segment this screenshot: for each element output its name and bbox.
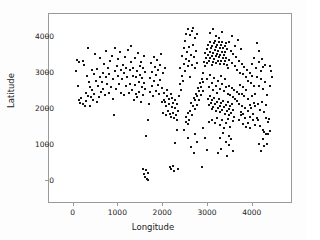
data-point: [228, 108, 230, 110]
data-point: [230, 138, 232, 140]
data-point: [194, 108, 196, 110]
data-point: [149, 91, 151, 93]
data-point: [185, 58, 187, 60]
data-point: [231, 103, 233, 105]
data-point: [87, 95, 89, 97]
data-point: [192, 44, 194, 46]
data-point: [211, 99, 213, 101]
data-point: [209, 41, 211, 43]
data-point: [240, 48, 242, 50]
data-point: [202, 72, 204, 74]
data-point: [154, 66, 156, 68]
data-point: [237, 39, 239, 41]
data-point: [171, 106, 173, 108]
y-tick-mark: [45, 180, 48, 181]
data-point: [240, 111, 242, 113]
data-point: [238, 103, 240, 105]
data-point: [78, 61, 80, 63]
data-point: [172, 165, 174, 167]
data-point: [197, 87, 199, 89]
data-point: [269, 65, 271, 67]
x-tick-mark: [162, 203, 163, 206]
data-point: [202, 81, 204, 83]
data-point: [220, 102, 222, 104]
data-point: [211, 45, 213, 47]
data-point: [94, 53, 96, 55]
data-point: [191, 64, 193, 66]
data-point: [187, 28, 189, 30]
data-point: [129, 69, 131, 71]
data-point: [119, 51, 121, 53]
data-point: [227, 118, 229, 120]
data-point: [263, 111, 265, 113]
data-point: [111, 55, 113, 57]
data-point: [269, 130, 271, 132]
data-point: [101, 81, 103, 83]
data-point: [232, 120, 234, 122]
data-point: [242, 113, 244, 115]
data-point: [196, 141, 198, 143]
data-point: [232, 53, 234, 55]
data-point: [234, 65, 236, 67]
data-point: [223, 127, 225, 129]
data-point: [158, 93, 160, 95]
data-point: [194, 99, 196, 101]
data-point: [87, 47, 89, 49]
data-point: [202, 127, 204, 129]
data-point: [213, 77, 215, 79]
data-point: [191, 114, 193, 116]
data-point: [196, 33, 198, 35]
data-point: [258, 61, 260, 63]
data-point: [219, 47, 221, 49]
data-point: [220, 44, 222, 46]
data-point: [93, 93, 95, 95]
data-point: [102, 72, 104, 74]
data-point: [165, 105, 167, 107]
data-point: [196, 95, 198, 97]
data-point: [145, 135, 147, 137]
data-point: [114, 47, 116, 49]
data-point: [189, 34, 191, 36]
data-point: [226, 155, 228, 157]
data-point: [215, 85, 217, 87]
data-point: [219, 88, 221, 90]
data-point: [151, 85, 153, 87]
data-point: [85, 92, 87, 94]
data-point: [209, 57, 211, 59]
data-point: [192, 105, 194, 107]
data-point: [260, 150, 262, 152]
data-point: [257, 119, 259, 121]
data-point: [203, 61, 205, 63]
data-point: [261, 101, 263, 103]
data-point: [128, 92, 130, 94]
data-point: [219, 124, 221, 126]
data-point: [182, 80, 184, 82]
data-point: [251, 63, 253, 65]
data-point: [91, 89, 93, 91]
data-point: [147, 179, 149, 181]
x-tick-label: 3000: [197, 208, 216, 217]
data-point: [227, 67, 229, 69]
data-point: [208, 86, 210, 88]
data-point: [256, 76, 258, 78]
data-point: [198, 99, 200, 101]
data-point: [84, 105, 86, 107]
data-points-layer: [49, 14, 291, 202]
data-point: [188, 119, 190, 121]
data-point: [228, 85, 230, 87]
data-point: [239, 72, 241, 74]
data-point: [93, 73, 95, 75]
data-point: [174, 107, 176, 109]
data-point: [253, 85, 255, 87]
data-point: [226, 110, 228, 112]
data-point: [261, 58, 263, 60]
data-point: [265, 104, 267, 106]
data-point: [196, 104, 198, 106]
data-point: [177, 110, 179, 112]
data-point: [207, 44, 209, 46]
data-point: [168, 98, 170, 100]
data-point: [187, 65, 189, 67]
data-point: [113, 114, 115, 116]
data-point: [212, 28, 214, 30]
x-tick-label: 2000: [153, 208, 172, 217]
